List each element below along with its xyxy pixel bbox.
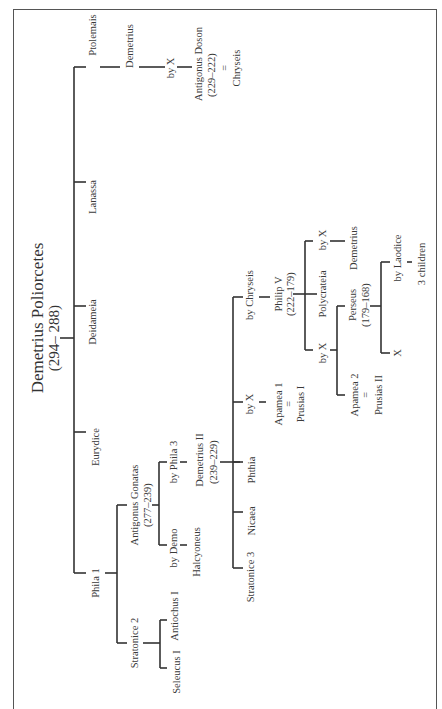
- apamea-2-eq: =: [360, 392, 372, 398]
- ptolemais-by-x: by X: [165, 58, 177, 79]
- by-chryseis: by Chryseis: [244, 270, 256, 320]
- antigonus-doson: Antigonus Doson: [193, 27, 205, 101]
- perseus: Perseus: [347, 289, 359, 321]
- stratonice-3: Stratonice 3: [245, 552, 257, 602]
- by-laodice: by Laodice: [392, 235, 404, 282]
- philip-son-demetrius: Demetrius: [348, 226, 360, 270]
- antigonus-doson-dates: (229–222): [206, 53, 218, 97]
- antiochus-1: Antiochus I: [169, 591, 181, 640]
- prusias-1: Prusias I: [295, 386, 307, 422]
- wife-lanassa: Lanassa: [87, 180, 99, 214]
- demetrius-ii: Demetrius II: [194, 433, 206, 486]
- halcyoneus: Halcyoneus: [191, 527, 203, 577]
- nicaea: Nicaea: [246, 506, 258, 535]
- demetrius-ii-dates: (239–229): [208, 440, 220, 484]
- wife-eurydice: Eurydice: [90, 428, 102, 466]
- by-x-apamea1: by X: [244, 394, 256, 415]
- by-phila-3: by Phila 3: [168, 441, 180, 484]
- philip-v: Philip V: [273, 276, 285, 311]
- wife-phila-1: Phila 1: [90, 568, 102, 597]
- antigonus-gonatas: Antigonus Gonatas: [129, 465, 141, 546]
- chryseis: Chryseis: [231, 50, 243, 87]
- doson-eq: =: [219, 65, 231, 71]
- apamea-1-eq: =: [283, 401, 295, 407]
- three-children: 3 children: [416, 243, 428, 285]
- by-x-left: by X: [317, 343, 329, 364]
- by-x-right: by X: [317, 230, 329, 251]
- ptolemais-son-demetrius: Demetrius: [124, 24, 136, 68]
- perseus-dates: (179–168): [360, 283, 372, 327]
- antigonus-gonatas-dates: (277–239): [142, 483, 154, 527]
- by-demo: by Demo: [168, 529, 180, 568]
- polycrateia: Polycrateia: [317, 270, 329, 317]
- title-dates: (294– 288): [45, 305, 63, 371]
- prusias-2: Prusias II: [373, 375, 385, 415]
- stratonice-2: Stratonice 2: [129, 618, 141, 668]
- x-child: X: [392, 349, 404, 357]
- philip-v-dates: (222–179): [285, 272, 297, 316]
- wife-ptolemais: Ptolemais: [87, 14, 99, 55]
- seleucus-1: Seleucus I: [171, 650, 183, 693]
- wife-deidameia: Deidameia: [87, 299, 99, 344]
- phthia: Phthia: [246, 457, 258, 484]
